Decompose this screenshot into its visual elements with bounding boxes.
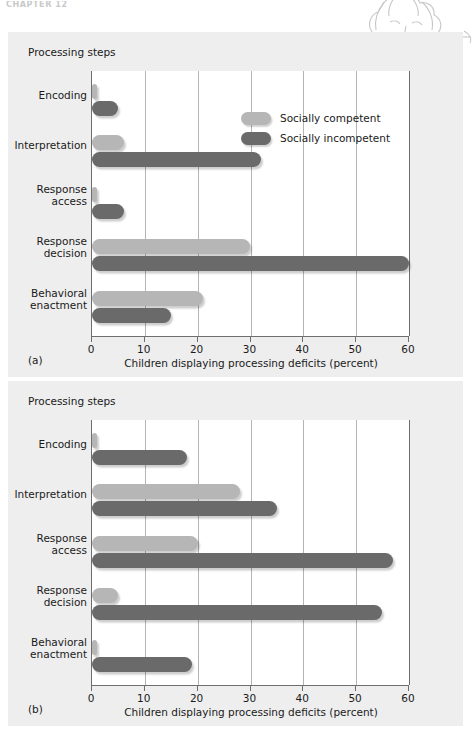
xtick-label-50-b: 50 — [348, 692, 361, 704]
bar-aggressive-interpretation — [92, 501, 277, 516]
xtick-0-b — [91, 686, 92, 691]
category-label-response-decision-b: Responsedecision — [9, 584, 87, 608]
x-axis-title-b: Children displaying processing deficits … — [91, 706, 411, 718]
xtick-label-60-a: 60 — [401, 343, 414, 355]
xtick-label-0-b: 0 — [88, 692, 95, 704]
xtick-label-10-a: 10 — [137, 343, 150, 355]
xtick-20-b — [197, 686, 198, 691]
bar-well-adjusted-interpretation — [92, 484, 240, 499]
bar-aggressive-behavioral-enactment — [92, 657, 192, 672]
xtick-10-a — [144, 337, 145, 342]
panel-tag-b: (b) — [28, 703, 43, 715]
category-label-response-access-a: Responseaccess — [9, 183, 87, 207]
bar-aggressive-response-access — [92, 553, 393, 568]
legend-item-socially-competent: Socially competent — [241, 108, 390, 128]
xtick-label-30-a: 30 — [243, 343, 256, 355]
xtick-30-b — [250, 686, 251, 691]
xtick-10-b — [144, 686, 145, 691]
plot-area-b: Encoding Interpretation Responseaccess R… — [91, 420, 416, 685]
bar-socially-incompetent-response-access — [92, 204, 124, 219]
running-header: CHAPTER 12 — [6, 1, 68, 8]
legend-swatch-socially-competent — [241, 112, 271, 125]
category-labels-a: Encoding Interpretation Responseaccess R… — [9, 71, 87, 336]
bar-well-adjusted-encoding — [92, 433, 97, 448]
xtick-label-20-a: 20 — [190, 343, 203, 355]
category-label-response-decision-a: Responsedecision — [9, 235, 87, 259]
xtick-label-60-b: 60 — [401, 692, 414, 704]
x-axis-title-a: Children displaying processing deficits … — [91, 357, 411, 369]
xtick-label-40-b: 40 — [296, 692, 309, 704]
y-axis-title-b: Processing steps — [28, 395, 116, 407]
bar-socially-competent-response-decision — [92, 239, 250, 254]
bar-socially-competent-encoding — [92, 84, 97, 99]
xtick-label-20-b: 20 — [190, 692, 203, 704]
bar-well-adjusted-response-decision — [92, 588, 118, 603]
xtick-label-10-b: 10 — [137, 692, 150, 704]
category-labels-b: Encoding Interpretation Responseaccess R… — [9, 420, 87, 685]
y-axis-title-a: Processing steps — [28, 46, 116, 58]
xtick-20-a — [197, 337, 198, 342]
plot-right-border-b — [409, 420, 410, 685]
panel-tag-a: (a) — [28, 354, 43, 366]
plot-canvas-b — [91, 420, 409, 686]
bar-well-adjusted-behavioral-enactment — [92, 640, 97, 655]
category-label-behavioral-enactment-b: Behavioralenactment — [9, 636, 87, 660]
figure-panel-b: Processing steps Encoding Interpretation… — [8, 381, 463, 726]
legend-a: Socially competent Socially incompetent — [241, 108, 390, 148]
category-label-response-access-b: Responseaccess — [9, 532, 87, 556]
bar-socially-incompetent-behavioral-enactment — [92, 308, 171, 323]
xtick-label-30-b: 30 — [243, 692, 256, 704]
bar-socially-incompetent-interpretation — [92, 152, 261, 167]
bar-socially-incompetent-encoding — [92, 101, 118, 116]
figure-panel-a: Processing steps Encoding Interpretation… — [8, 32, 463, 377]
xtick-40-b — [302, 686, 303, 691]
xtick-60-b — [408, 686, 409, 691]
xtick-50-a — [355, 337, 356, 342]
category-label-encoding-a: Encoding — [9, 89, 87, 101]
xtick-60-a — [408, 337, 409, 342]
legend-label-socially-incompetent: Socially incompetent — [280, 132, 390, 144]
category-label-behavioral-enactment-a: Behavioralenactment — [9, 287, 87, 311]
xtick-0-a — [91, 337, 92, 342]
xtick-label-0-a: 0 — [88, 343, 95, 355]
bar-socially-competent-response-access — [92, 187, 97, 202]
xtick-50-b — [355, 686, 356, 691]
legend-swatch-socially-incompetent — [241, 132, 271, 145]
legend-label-socially-competent: Socially competent — [280, 112, 381, 124]
category-label-interpretation-a: Interpretation — [9, 139, 87, 151]
xtick-label-50-a: 50 — [348, 343, 361, 355]
bar-well-adjusted-response-access — [92, 536, 198, 551]
xtick-40-a — [302, 337, 303, 342]
category-label-interpretation-b: Interpretation — [9, 488, 87, 500]
plot-right-border-a — [409, 71, 410, 336]
category-label-encoding-b: Encoding — [9, 438, 87, 450]
xtick-label-40-a: 40 — [296, 343, 309, 355]
bar-aggressive-response-decision — [92, 605, 382, 620]
bar-socially-competent-behavioral-enactment — [92, 291, 203, 306]
bar-socially-competent-interpretation — [92, 135, 124, 150]
legend-item-socially-incompetent: Socially incompetent — [241, 128, 390, 148]
bar-aggressive-encoding — [92, 450, 187, 465]
bar-socially-incompetent-response-decision — [92, 256, 409, 271]
xtick-30-a — [250, 337, 251, 342]
